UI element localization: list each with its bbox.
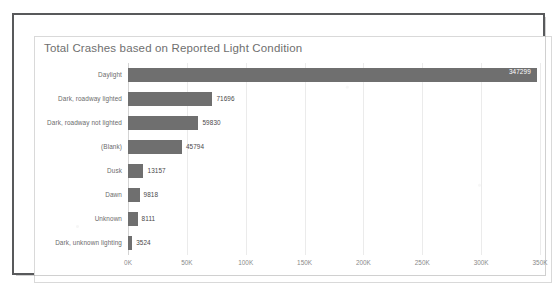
category-label: Dusk xyxy=(107,167,122,174)
bar[interactable]: 347299 xyxy=(128,68,537,83)
x-tick-label: 150K xyxy=(297,259,312,266)
chart-card: Total Crashes based on Reported Light Co… xyxy=(34,36,552,283)
gridline xyxy=(540,63,541,255)
bar[interactable] xyxy=(128,164,143,179)
bar-value-label: 9818 xyxy=(144,191,159,198)
x-tick-label: 300K xyxy=(474,259,489,266)
document-frame: Total Crashes based on Reported Light Co… xyxy=(12,13,545,275)
plot-area: Daylight347299Dark, roadway lighted71696… xyxy=(128,63,540,255)
x-tick-label: 250K xyxy=(415,259,430,266)
bar[interactable] xyxy=(128,188,140,203)
bar-value-label: 59830 xyxy=(202,119,220,126)
category-label: Dark, roadway not lighted xyxy=(47,119,122,126)
bar-row[interactable]: Dawn9818 xyxy=(128,188,540,203)
bar-row[interactable]: Dark, unknown lighting3524 xyxy=(128,236,540,251)
bar-value-label: 347299 xyxy=(509,68,531,75)
bar[interactable] xyxy=(128,116,198,131)
bar-value-label: 3524 xyxy=(136,239,151,246)
x-tick-label: 350K xyxy=(533,259,548,266)
x-tick-label: 50K xyxy=(181,259,192,266)
bar[interactable] xyxy=(128,140,182,155)
value-axis-ticks: 0K50K100K150K200K250K300K350K xyxy=(128,259,540,273)
bar-row[interactable]: Daylight347299 xyxy=(128,68,540,83)
bar-row[interactable]: Dark, roadway not lighted59830 xyxy=(128,116,540,131)
bar-series: Daylight347299Dark, roadway lighted71696… xyxy=(128,63,540,255)
category-label: Dark, unknown lighting xyxy=(55,239,122,246)
bar-row[interactable]: Dark, roadway lighted71696 xyxy=(128,92,540,107)
category-label: Dark, roadway lighted xyxy=(58,95,122,102)
bar[interactable] xyxy=(128,92,212,107)
category-label: Unknown xyxy=(95,215,122,222)
bar-value-label: 45794 xyxy=(186,143,204,150)
bar-row[interactable]: Unknown8111 xyxy=(128,212,540,227)
x-tick-label: 100K xyxy=(238,259,253,266)
bar[interactable] xyxy=(128,236,132,251)
bar-value-label: 8111 xyxy=(142,215,156,222)
bar-row[interactable]: Dusk13157 xyxy=(128,164,540,179)
x-tick-label: 0K xyxy=(124,259,132,266)
category-label: Daylight xyxy=(98,71,122,78)
category-label: Dawn xyxy=(105,191,122,198)
bar-row[interactable]: (Blank)45794 xyxy=(128,140,540,155)
category-label: (Blank) xyxy=(101,143,122,150)
chart-title: Total Crashes based on Reported Light Co… xyxy=(44,42,302,54)
bar[interactable] xyxy=(128,212,138,227)
bar-value-label: 13157 xyxy=(147,167,165,174)
x-tick-label: 200K xyxy=(356,259,371,266)
bar-value-label: 71696 xyxy=(216,95,234,102)
